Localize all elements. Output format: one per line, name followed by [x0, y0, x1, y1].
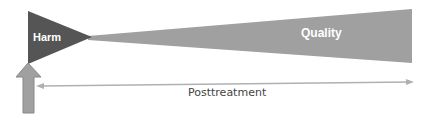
quality-wedge — [88, 9, 412, 63]
quality-label: Quality — [301, 26, 342, 40]
intervention-up-arrow-icon — [16, 63, 41, 113]
harm-label: Harm — [33, 31, 61, 43]
posttreatment-label: Posttreatment — [188, 86, 266, 99]
diagram-canvas — [0, 0, 426, 118]
